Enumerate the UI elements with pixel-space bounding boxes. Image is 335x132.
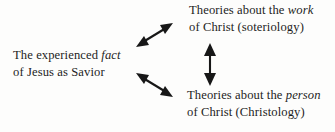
node-theories-person-line2: of Christ (Christology) bbox=[187, 104, 321, 121]
node-theories-work: Theories about the work of Christ (soter… bbox=[189, 2, 313, 35]
node-theories-person: Theories about the person of Christ (Chr… bbox=[187, 87, 321, 120]
node-theories-work-line2: of Christ (soteriology) bbox=[189, 19, 313, 36]
arrow-work-to-person-icon bbox=[204, 43, 216, 86]
node-experienced-fact: The experienced fact of Jesus as Savior bbox=[13, 47, 121, 80]
arrow-fact-to-person-icon bbox=[136, 73, 173, 97]
theology-relationship-diagram: The experienced fact of Jesus as Savior … bbox=[0, 0, 335, 132]
node-theories-person-line1: Theories about the person bbox=[187, 87, 321, 104]
arrow-fact-to-work-icon bbox=[136, 23, 173, 47]
node-experienced-fact-line2: of Jesus as Savior bbox=[13, 64, 121, 81]
node-experienced-fact-line1: The experienced fact bbox=[13, 47, 121, 64]
node-theories-work-line1: Theories about the work bbox=[189, 2, 313, 19]
